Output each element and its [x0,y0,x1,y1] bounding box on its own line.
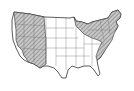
us-map-svg [0,0,134,91]
us-map [0,0,134,91]
western-shaded-region [14,12,46,68]
